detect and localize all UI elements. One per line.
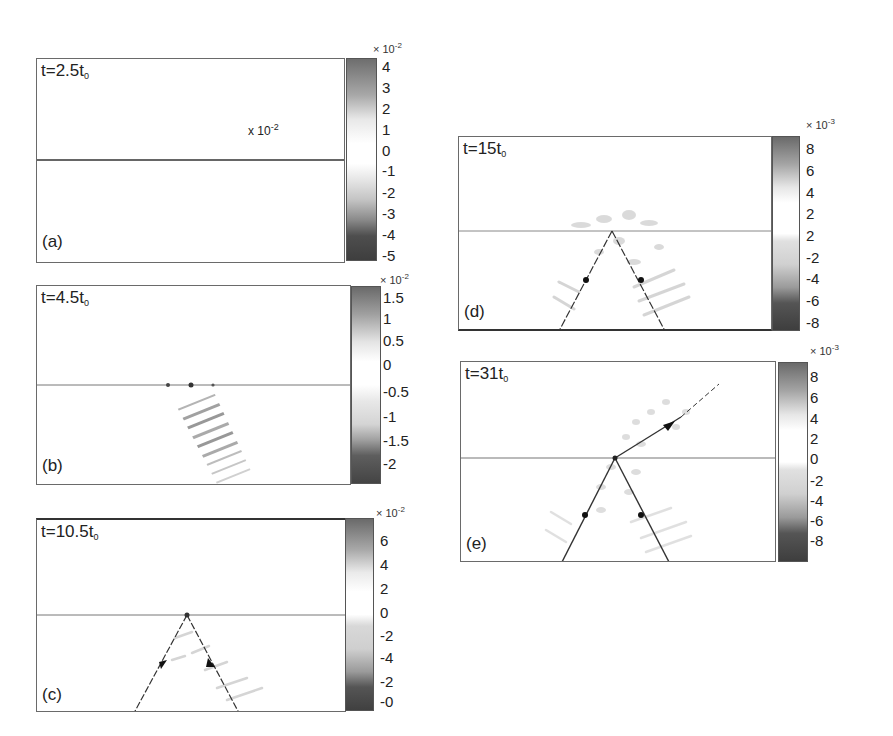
panel-letter: (a) <box>42 232 63 252</box>
panel-letter: (d) <box>464 302 485 322</box>
arrow-up-icon <box>638 277 644 283</box>
panel-a-field-image <box>37 59 345 263</box>
panel-letter: (c) <box>42 685 62 705</box>
arrow-down-icon <box>159 660 167 669</box>
inner-scale-label: x 10-2 <box>248 122 279 138</box>
panel-e-field-image <box>461 362 776 562</box>
time-label: t=2.5t0 <box>41 61 89 81</box>
time-label: t=15t0 <box>463 139 506 159</box>
panel-a-colorbar-exponent: × 10-2 <box>373 41 402 55</box>
reflected-ray <box>615 458 669 562</box>
panel-d-field-image <box>459 137 772 331</box>
panel-b-plot: t=4.5t0 (b) <box>36 285 351 485</box>
panel-a-colorbar <box>346 58 377 261</box>
panel-letter: (e) <box>466 534 487 554</box>
panel-e-plot: t=31t0 (e) <box>460 361 776 562</box>
panel-a-plot: t=2.5t0 x 10-2 (a) <box>36 58 345 263</box>
panel-d-plot: t=15t0 (d) <box>458 136 772 331</box>
panel-c-field-image <box>37 520 346 712</box>
time-label: t=4.5t0 <box>41 288 89 308</box>
panel-e-colorbar <box>778 362 808 562</box>
reflected-ray <box>187 615 239 712</box>
panel-b-colorbar <box>351 286 381 484</box>
panel-d-colorbar <box>772 136 800 331</box>
panel-e-colorbar-exponent: × 10-3 <box>810 343 839 357</box>
panel-c-plot: t=10.5t0 (c) <box>36 518 346 712</box>
incident-ray <box>562 458 615 562</box>
panel-d-colorbar-exponent: × 10-3 <box>806 117 835 131</box>
panel-letter: (b) <box>42 456 63 476</box>
panel-b-field-image <box>37 286 351 485</box>
panel-b-colorbar-exponent: × 10-2 <box>380 272 409 286</box>
arrow-down-icon <box>582 512 588 518</box>
arrow-down-icon <box>583 277 589 283</box>
arrow-up-icon <box>638 512 644 518</box>
panel-c-colorbar <box>345 518 374 711</box>
time-label: t=31t0 <box>465 364 508 384</box>
panel-c-colorbar-exponent: × 10-2 <box>376 505 405 519</box>
time-label: t=10.5t0 <box>41 522 98 542</box>
